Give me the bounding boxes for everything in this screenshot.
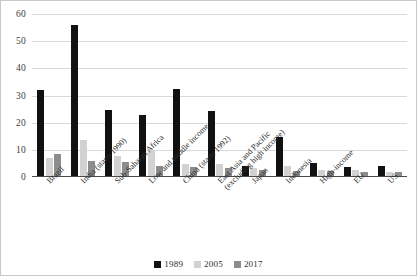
legend-item[interactable]: 1989 (154, 259, 183, 269)
legend-item[interactable]: 2017 (234, 259, 263, 269)
bar-group (276, 14, 300, 177)
bar-group (71, 14, 95, 177)
bar (71, 25, 78, 177)
legend-swatch-icon (234, 261, 241, 268)
bar-chart: 0102030405060 BrazilIndia (starts 1990)S… (0, 0, 417, 276)
legend-swatch-icon (194, 261, 201, 268)
y-axis-tick-labels: 0102030405060 (1, 14, 29, 177)
y-axis-tick-label: 10 (16, 145, 26, 155)
chart-legend: 198920052017 (1, 259, 416, 269)
legend-swatch-icon (154, 261, 161, 268)
legend-label: 1989 (164, 259, 183, 269)
legend-label: 2005 (204, 259, 223, 269)
bar (208, 111, 215, 177)
bar-group (310, 14, 334, 177)
bar-group (378, 14, 402, 177)
bar (105, 110, 112, 177)
legend-label: 2017 (244, 259, 263, 269)
y-axis-tick-label: 40 (16, 63, 26, 73)
y-axis-tick-label: 30 (16, 91, 26, 101)
y-axis-tick-label: 0 (21, 172, 26, 182)
y-axis-tick-label: 20 (16, 118, 26, 128)
y-axis-tick-label: 50 (16, 36, 26, 46)
bar-group (37, 14, 61, 177)
legend-item[interactable]: 2005 (194, 259, 223, 269)
y-axis-tick-label: 60 (16, 9, 26, 19)
x-axis-category-labels: BrazilIndia (starts 1990)Sub-Saharan Afr… (32, 179, 407, 249)
bar (37, 90, 44, 177)
